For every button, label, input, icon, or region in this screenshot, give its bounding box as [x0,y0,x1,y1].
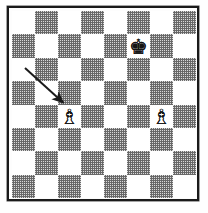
square-g7[interactable] [150,34,173,57]
square-e4[interactable] [104,105,127,128]
square-f1[interactable] [127,175,150,198]
square-c8[interactable] [58,11,81,34]
square-g3[interactable] [150,128,173,151]
square-h3[interactable] [173,128,196,151]
chess-board[interactable]: ♚♗♗ [12,11,196,198]
square-f5[interactable] [127,81,150,104]
square-h8[interactable] [173,11,196,34]
square-h4[interactable] [173,105,196,128]
square-b4[interactable] [35,105,58,128]
square-g2[interactable] [150,151,173,174]
white-bishop-c4[interactable]: ♗ [58,105,81,128]
square-c3[interactable] [58,128,81,151]
square-d7[interactable] [81,34,104,57]
square-a1[interactable] [12,175,35,198]
board-frame: ♚♗♗ [7,6,199,201]
square-c1[interactable] [58,175,81,198]
square-c6[interactable] [58,58,81,81]
square-h7[interactable] [173,34,196,57]
square-a2[interactable] [12,151,35,174]
square-g5[interactable] [150,81,173,104]
square-a3[interactable] [12,128,35,151]
square-h1[interactable] [173,175,196,198]
black-king[interactable]: ♚ [127,34,150,57]
square-d3[interactable] [81,128,104,151]
square-f6[interactable] [127,58,150,81]
square-e5[interactable] [104,81,127,104]
square-f2[interactable] [127,151,150,174]
square-a4[interactable] [12,105,35,128]
square-a6[interactable] [12,58,35,81]
square-f4[interactable] [127,105,150,128]
chess-diagram: ♚♗♗ [0,0,208,213]
square-b3[interactable] [35,128,58,151]
square-g6[interactable] [150,58,173,81]
square-g4[interactable]: ♗ [150,105,173,128]
square-b1[interactable] [35,175,58,198]
square-b2[interactable] [35,151,58,174]
square-e1[interactable] [104,175,127,198]
square-c7[interactable] [58,34,81,57]
square-b8[interactable] [35,11,58,34]
square-h5[interactable] [173,81,196,104]
square-g8[interactable] [150,11,173,34]
square-d1[interactable] [81,175,104,198]
square-a8[interactable] [12,11,35,34]
square-e3[interactable] [104,128,127,151]
square-e8[interactable] [104,11,127,34]
square-f8[interactable] [127,11,150,34]
square-e6[interactable] [104,58,127,81]
white-bishop-g4[interactable]: ♗ [150,105,173,128]
square-h2[interactable] [173,151,196,174]
square-h6[interactable] [173,58,196,81]
square-e2[interactable] [104,151,127,174]
square-d2[interactable] [81,151,104,174]
square-f3[interactable] [127,128,150,151]
square-c5[interactable] [58,81,81,104]
square-f7[interactable]: ♚ [127,34,150,57]
square-d4[interactable] [81,105,104,128]
square-b5[interactable] [35,81,58,104]
square-c4[interactable]: ♗ [58,105,81,128]
square-b6[interactable] [35,58,58,81]
square-d6[interactable] [81,58,104,81]
square-g1[interactable] [150,175,173,198]
square-e7[interactable] [104,34,127,57]
square-d8[interactable] [81,11,104,34]
square-c2[interactable] [58,151,81,174]
square-d5[interactable] [81,81,104,104]
square-a5[interactable] [12,81,35,104]
square-a7[interactable] [12,34,35,57]
square-b7[interactable] [35,34,58,57]
